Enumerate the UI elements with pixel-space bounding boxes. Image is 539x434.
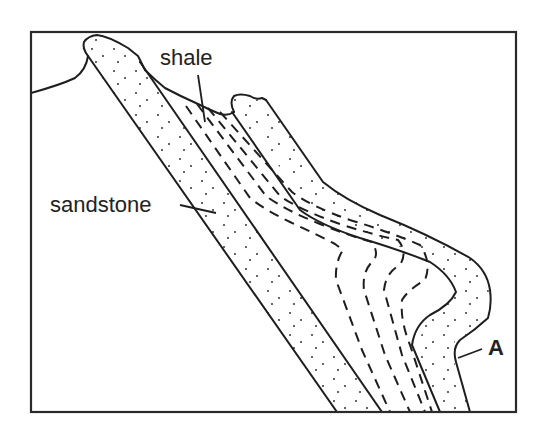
label-sandstone: sandstone bbox=[50, 192, 152, 217]
left-sandstone-outer-edge bbox=[88, 56, 337, 412]
geologic-cross-section: shale sandstone A bbox=[0, 0, 539, 434]
point-a-leader-line bbox=[458, 349, 482, 358]
hill-outline bbox=[31, 56, 88, 93]
shale-leader-line bbox=[198, 75, 205, 122]
label-point-a: A bbox=[488, 335, 504, 360]
label-shale: shale bbox=[160, 45, 213, 70]
